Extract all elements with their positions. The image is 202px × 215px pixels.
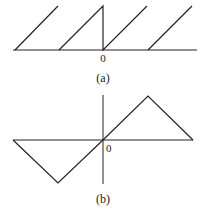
- sawtooth-segment: [15, 6, 58, 50]
- figure-b: 0 (b): [13, 95, 193, 206]
- sawtooth-segment: [148, 6, 192, 50]
- figure-b-caption: (b): [96, 192, 110, 206]
- sawtooth-segment: [59, 6, 147, 50]
- figure-a-caption: (a): [96, 71, 109, 85]
- figure-a-origin-label: 0: [100, 52, 106, 64]
- figure-b-origin-label: 0: [106, 142, 112, 154]
- diagram-canvas: 0 (a) 0 (b): [0, 0, 202, 215]
- figure-a: 0 (a): [13, 6, 197, 85]
